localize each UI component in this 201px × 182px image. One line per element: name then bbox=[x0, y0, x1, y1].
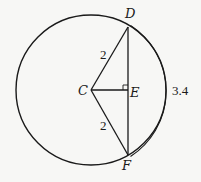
label-d: D bbox=[124, 6, 136, 21]
label-radius-cd: 2 bbox=[100, 47, 107, 62]
label-f: F bbox=[121, 158, 132, 173]
right-angle-marker bbox=[123, 85, 128, 90]
label-arc-df: 3.4 bbox=[172, 83, 189, 98]
radius-cf bbox=[91, 90, 128, 155]
circle-diagram: C D E F 2 2 3.4 bbox=[0, 0, 201, 182]
radius-cd bbox=[91, 27, 128, 90]
label-radius-cf: 2 bbox=[100, 118, 107, 133]
label-c: C bbox=[78, 83, 88, 98]
label-e: E bbox=[129, 85, 140, 100]
